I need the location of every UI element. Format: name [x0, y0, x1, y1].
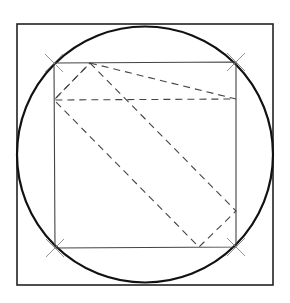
- geometry-diagram: [0, 0, 290, 303]
- background: [0, 0, 290, 303]
